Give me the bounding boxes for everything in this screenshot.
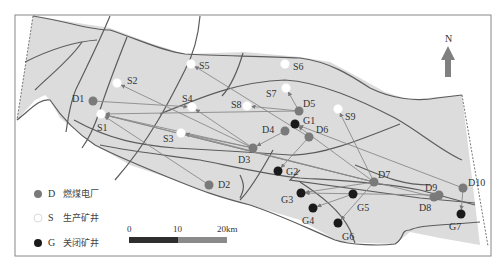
production-mine-legend-icon <box>34 214 42 222</box>
legend-label-production-mine: 生产矿井 <box>63 212 99 223</box>
production-mine-marker-icon <box>113 79 122 88</box>
closed-mine-label: G4 <box>302 215 314 226</box>
power-plant-label: D9 <box>425 182 437 193</box>
power-plant-marker-icon <box>205 181 214 190</box>
power-plant-legend-icon <box>34 190 42 198</box>
production-mine-marker-icon <box>97 110 106 119</box>
power-plant-label: D2 <box>218 179 230 190</box>
power-plant-marker-icon <box>89 97 98 106</box>
legend-label-power-plant: 燃煤电厂 <box>63 188 99 199</box>
closed-mine-label: G2 <box>286 166 298 177</box>
power-plant-d2[interactable]: D2 <box>205 179 231 190</box>
production-mine-label: S3 <box>163 133 174 144</box>
production-mine-marker-icon <box>187 60 196 69</box>
closed-mine-marker-icon <box>334 219 343 228</box>
power-plant-marker-icon <box>305 133 314 142</box>
production-mine-label: S5 <box>199 60 210 71</box>
closed-mine-label: G6 <box>342 231 354 242</box>
production-mine-marker-icon <box>281 60 290 69</box>
power-plant-marker-icon <box>459 184 468 193</box>
legend-symbol-s: S <box>48 212 54 223</box>
power-plant-label: D6 <box>316 124 328 135</box>
legend-symbol-d: D <box>48 188 55 199</box>
scale-tick-10: 10 <box>173 224 183 234</box>
power-plant-label: D3 <box>238 154 250 165</box>
production-mine-marker-icon <box>282 84 291 93</box>
scale-segment-light <box>178 237 227 243</box>
production-mine-label: S7 <box>266 88 277 99</box>
power-plant-label: D10 <box>468 177 485 188</box>
production-mine-marker-icon <box>334 105 343 114</box>
power-plant-label: D1 <box>72 93 84 104</box>
closed-mine-marker-icon <box>297 189 306 198</box>
closed-mine-label: G3 <box>281 194 293 205</box>
closed-mine-marker-icon <box>457 210 466 219</box>
legend-symbol-g: G <box>48 237 55 248</box>
production-mine-label: S9 <box>345 111 356 122</box>
scale-tick-20km: 20km <box>217 224 238 234</box>
production-mine-label: S8 <box>231 99 242 110</box>
closed-mine-marker-icon <box>274 167 283 176</box>
power-plant-label: D8 <box>419 202 431 213</box>
closed-mine-marker-icon <box>349 190 358 199</box>
power-plant-label: D7 <box>378 169 390 180</box>
production-mine-label: S2 <box>127 75 138 86</box>
power-plant-marker-icon <box>249 144 258 153</box>
closed-mine-label: G1 <box>303 115 315 126</box>
production-mine-marker-icon <box>177 129 186 138</box>
closed-mine-label: G7 <box>449 221 461 232</box>
power-plant-label: D4 <box>262 124 274 135</box>
closed-mine-marker-icon <box>291 120 300 129</box>
scale-segment-dark <box>129 237 178 243</box>
production-mine-label: S4 <box>182 93 193 104</box>
production-mine-label: S1 <box>97 122 108 133</box>
closed-mine-legend-icon <box>34 239 42 247</box>
production-mine-marker-icon <box>243 102 252 111</box>
north-label: N <box>445 33 452 44</box>
power-plant-label: D5 <box>303 98 315 109</box>
scale-tick-0: 0 <box>127 224 132 234</box>
closed-mine-marker-icon <box>309 204 318 213</box>
closed-mine-g2[interactable]: G2 <box>274 166 299 177</box>
closed-mine-label: G5 <box>357 202 369 213</box>
power-plant-marker-icon <box>281 127 290 136</box>
legend-label-closed-mine: 关闭矿井 <box>63 237 99 248</box>
coal-basin-map: D1D2D3D4D5D6D7D8D9D10S1S2S3S4S5S6S7S8S9G… <box>0 0 502 269</box>
production-mine-label: S6 <box>293 61 304 72</box>
